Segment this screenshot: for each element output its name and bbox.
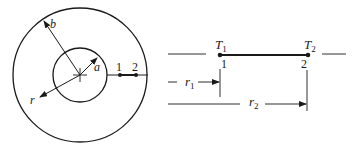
element-schematic: T1 T2 1 2 r1 r2 [168,37,346,111]
radial-r-label: r [30,93,35,107]
T2-label: T2 [304,37,316,54]
node-2-label: 2 [301,57,307,71]
point-2-label: 2 [132,60,138,74]
r2-label: r2 [249,94,259,111]
T1-label: T1 [215,37,227,54]
radius-a-label: a [94,60,100,74]
annulus-figure: b a r 1 2 [13,8,148,142]
node-1-label: 1 [221,57,227,71]
point-1-label: 1 [116,60,122,74]
r1-label: r1 [185,74,195,91]
diagram-canvas: b a r 1 2 T1 T2 1 2 [0,0,359,152]
radius-b-label: b [50,17,56,31]
